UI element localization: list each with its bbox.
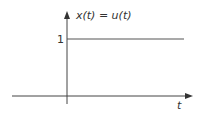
unit-step-diagram: x(t) = u(t) 1 t — [0, 0, 203, 114]
t-axis-label: t — [177, 99, 182, 112]
y-tick-label: 1 — [57, 33, 64, 46]
vertical-axis-arrow-icon — [64, 11, 70, 19]
t-axis-arrow-icon — [185, 93, 193, 99]
function-label: x(t) = u(t) — [75, 9, 131, 22]
